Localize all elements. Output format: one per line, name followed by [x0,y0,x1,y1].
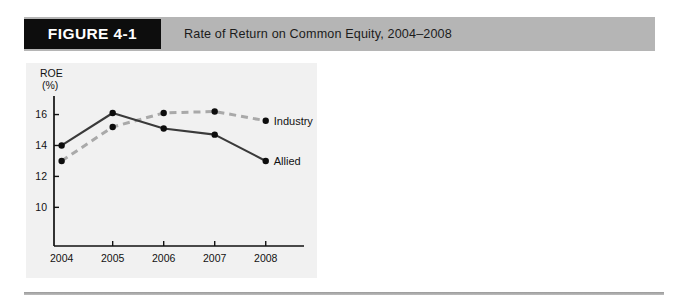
chart-series-layer [58,108,268,164]
series-line-industry [62,111,266,160]
data-point-allied-2008 [263,158,269,164]
data-point-industry-2007 [212,108,218,114]
data-point-industry-2004 [58,158,64,164]
y-tick-label: 10 [35,201,47,213]
line-chart: 16141210 20042005200620072008 ROE (%) Al… [26,63,317,278]
x-axis-ticks: 20042005200620072008 [50,241,278,264]
data-point-industry-2006 [160,110,166,116]
x-tick-label: 2006 [152,252,176,264]
chart-panel: 16141210 20042005200620072008 ROE (%) Al… [26,63,317,278]
chart-series-labels: AlliedIndustry [274,115,314,167]
figure-number-badge: FIGURE 4-1 [24,19,161,49]
y-axis-unit-label: (%) [42,79,58,91]
footer-divider [24,292,664,295]
figure-number-label: FIGURE 4-1 [48,25,137,43]
data-point-industry-2005 [109,124,115,130]
series-label-allied: Allied [274,155,301,167]
y-axis-ticks: 16141210 [35,108,59,213]
y-axis-label: ROE [40,67,63,79]
data-point-allied-2005 [109,110,115,116]
x-tick-label: 2008 [254,252,278,264]
data-point-allied-2004 [58,142,64,148]
y-tick-label: 14 [35,139,47,151]
series-label-industry: Industry [274,115,314,127]
y-tick-label: 12 [35,170,47,182]
series-line-allied [62,113,266,161]
x-tick-label: 2004 [50,252,74,264]
data-point-industry-2008 [263,118,269,124]
data-point-allied-2006 [160,125,166,131]
x-tick-label: 2007 [203,252,227,264]
y-tick-label: 16 [35,108,47,120]
x-tick-label: 2005 [101,252,125,264]
figure-title: Rate of Return on Common Equity, 2004–20… [184,17,452,51]
data-point-allied-2007 [212,131,218,137]
